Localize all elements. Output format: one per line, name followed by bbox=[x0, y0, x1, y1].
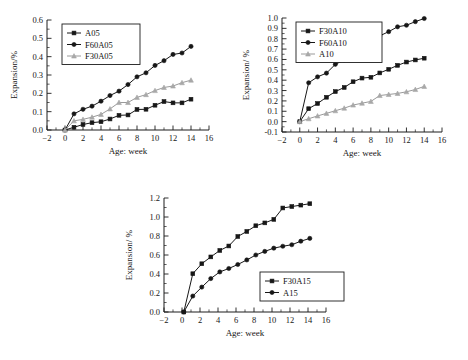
y-tick-label: 0.5 bbox=[32, 33, 43, 43]
data-point bbox=[342, 86, 346, 90]
data-point bbox=[81, 123, 85, 127]
x-tick-label: 4 bbox=[333, 135, 338, 145]
x-tick-label: 16 bbox=[322, 315, 331, 325]
y-tick-label: 0.1 bbox=[32, 107, 43, 117]
x-tick-label: 12 bbox=[169, 133, 178, 143]
data-point bbox=[126, 113, 130, 117]
data-point bbox=[413, 20, 417, 24]
x-tick-label: −2 bbox=[277, 135, 286, 145]
data-point bbox=[180, 51, 184, 55]
data-point bbox=[404, 23, 408, 27]
y-tick-label: 0.1 bbox=[267, 106, 278, 116]
data-point bbox=[316, 102, 320, 106]
y-tick-label: 1.0 bbox=[149, 212, 160, 222]
chart-panel-a05: −202468101214160.00.10.20.30.40.50.6Age:… bbox=[0, 2, 234, 180]
data-point bbox=[272, 217, 276, 221]
series-line-f30a10 bbox=[300, 58, 424, 121]
data-point bbox=[422, 56, 426, 60]
y-tick-label: 0.6 bbox=[32, 15, 43, 25]
data-point bbox=[99, 99, 103, 103]
x-tick-label: 0 bbox=[180, 315, 184, 325]
x-tick-label: 12 bbox=[402, 135, 411, 145]
x-tick-label: 16 bbox=[205, 133, 214, 143]
data-point bbox=[189, 97, 193, 101]
data-point bbox=[299, 239, 303, 243]
legend-label: F30A10 bbox=[319, 26, 347, 36]
legend-swatch-marker bbox=[72, 31, 76, 35]
legend-swatch-marker bbox=[306, 29, 310, 33]
y-tick-label: 0.6 bbox=[149, 250, 160, 260]
legend[interactable]: F30A10F60A10A10 bbox=[296, 22, 382, 63]
data-point bbox=[200, 262, 204, 266]
y-axis-title: Expansion/ % bbox=[124, 229, 134, 280]
legend-swatch-marker bbox=[270, 290, 274, 294]
x-tick-label: 4 bbox=[216, 315, 221, 325]
data-point bbox=[162, 100, 166, 104]
legend-swatch-marker bbox=[72, 42, 76, 46]
y-tick-label: 0.2 bbox=[267, 96, 278, 106]
data-point bbox=[191, 294, 195, 298]
data-point bbox=[263, 221, 267, 225]
data-point bbox=[135, 108, 139, 112]
data-point bbox=[209, 255, 213, 259]
y-tick-label: 1.2 bbox=[149, 193, 160, 203]
data-point bbox=[281, 206, 285, 210]
y-tick-label: 0.2 bbox=[32, 88, 43, 98]
x-tick-label: 4 bbox=[99, 133, 104, 143]
data-point bbox=[200, 285, 204, 289]
chart-panel-a10: −20246810121416-0.10.00.10.20.30.40.50.6… bbox=[232, 2, 468, 180]
data-point bbox=[396, 63, 400, 67]
data-point bbox=[153, 103, 157, 107]
data-point bbox=[108, 117, 112, 121]
data-point bbox=[254, 253, 258, 257]
legend[interactable]: A05F60A05F30A05 bbox=[62, 24, 140, 65]
y-tick-label: 0.0 bbox=[32, 125, 43, 135]
data-point bbox=[307, 107, 311, 111]
data-point bbox=[360, 76, 364, 80]
x-tick-label: 12 bbox=[286, 315, 295, 325]
data-point bbox=[99, 120, 103, 124]
data-point bbox=[227, 266, 231, 270]
data-point bbox=[299, 203, 303, 207]
chart-panel-a15: −202468101214160.00.20.40.60.81.01.2Age:… bbox=[112, 180, 362, 360]
y-tick-label: 0.7 bbox=[267, 44, 278, 54]
data-point bbox=[325, 95, 329, 99]
data-point bbox=[387, 30, 391, 34]
x-tick-label: 8 bbox=[252, 315, 256, 325]
y-axis-title: Expansion/% bbox=[9, 51, 19, 99]
data-point bbox=[144, 92, 149, 96]
data-point bbox=[254, 224, 258, 228]
data-point bbox=[245, 258, 249, 262]
data-point bbox=[324, 71, 328, 75]
x-tick-label: 8 bbox=[135, 133, 139, 143]
data-point bbox=[281, 244, 285, 248]
y-axis-title: Expansion/ % bbox=[241, 49, 251, 100]
chart-a10-svg: −20246810121416-0.10.00.10.20.30.40.50.6… bbox=[232, 2, 468, 180]
y-tick-label: 0.3 bbox=[32, 70, 43, 80]
legend-label: F60A10 bbox=[319, 38, 347, 48]
y-tick-label: 0.0 bbox=[149, 307, 160, 317]
data-point bbox=[126, 82, 130, 86]
x-tick-label: −2 bbox=[42, 133, 51, 143]
data-point bbox=[218, 249, 222, 253]
data-point bbox=[162, 59, 166, 63]
data-point bbox=[81, 107, 85, 111]
data-point bbox=[290, 205, 294, 209]
x-tick-label: 16 bbox=[438, 135, 447, 145]
data-point bbox=[189, 78, 194, 82]
data-point bbox=[180, 101, 184, 105]
y-tick-label: 0.4 bbox=[267, 75, 278, 85]
legend[interactable]: F30A15A15 bbox=[260, 272, 344, 301]
legend-label: F30A15 bbox=[283, 276, 311, 286]
figure-root: −202468101214160.00.10.20.30.40.50.6Age:… bbox=[0, 0, 468, 360]
x-tick-label: 2 bbox=[198, 315, 202, 325]
data-point bbox=[333, 90, 337, 94]
data-point bbox=[144, 107, 148, 111]
data-point bbox=[272, 246, 276, 250]
data-point bbox=[144, 71, 148, 75]
data-point bbox=[90, 104, 94, 108]
data-point bbox=[368, 99, 373, 103]
data-point bbox=[218, 270, 222, 274]
x-tick-label: −2 bbox=[159, 315, 168, 325]
x-axis-title: Age: week bbox=[343, 148, 382, 158]
